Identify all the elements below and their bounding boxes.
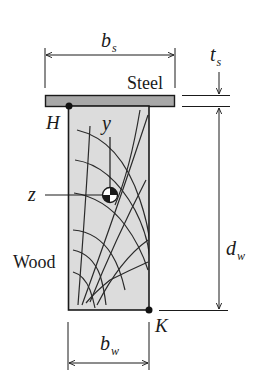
z-axis-label: z — [28, 184, 36, 204]
point-k-icon — [146, 307, 153, 314]
centroid-icon — [103, 188, 118, 203]
wood-label: Wood — [13, 253, 56, 271]
point-h-label: H — [46, 113, 60, 132]
ts-label: ts — [210, 44, 221, 64]
steel-plate — [46, 96, 175, 107]
steel-label: Steel — [127, 74, 163, 92]
point-k-label: K — [155, 316, 168, 335]
bs-label: bs — [101, 30, 117, 50]
bw-label: bw — [100, 333, 119, 353]
y-axis-label: y — [102, 113, 111, 133]
wood-web — [68, 106, 150, 310]
ts-dimension — [182, 72, 230, 107]
point-h-icon — [66, 103, 73, 110]
dw-dimension — [159, 108, 228, 311]
composite-beam-cross-section-diagram: bs Steel ts H y z dw Wood K bw — [0, 0, 260, 389]
dw-label: dw — [226, 238, 245, 258]
